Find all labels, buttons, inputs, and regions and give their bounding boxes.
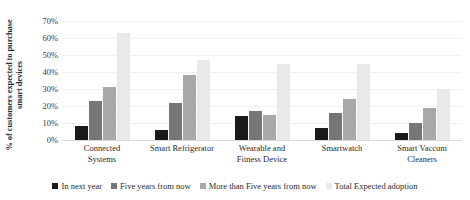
x-axis-category-label: ConnectedSystems (62, 143, 142, 164)
x-axis-category-labels: ConnectedSystemsSmart RefrigeratorWearab… (62, 143, 462, 173)
y-axis-tick-label: 40% (24, 68, 58, 77)
bar-group (302, 21, 382, 140)
bar-group (222, 21, 302, 140)
bar (277, 64, 290, 141)
legend-item[interactable]: Five years from now (111, 181, 191, 191)
bar (357, 64, 370, 141)
bar (329, 113, 342, 140)
legend-label: Total Expected adoption (335, 181, 418, 191)
bar (117, 33, 130, 140)
legend-item[interactable]: In next year (52, 181, 102, 191)
bar (89, 101, 102, 140)
legend-label: Five years from now (120, 181, 191, 191)
bar (409, 123, 422, 140)
bar-group (62, 21, 142, 140)
x-axis-category-label-line: Wearable and (222, 143, 302, 154)
y-axis-tick-label: 70% (24, 17, 58, 26)
x-axis-category-label: Wearable andFitness Device (222, 143, 302, 164)
y-axis-tick-label: 60% (24, 34, 58, 43)
bar (169, 103, 182, 140)
bar-group (382, 21, 462, 140)
x-axis-category-label: Smart Refrigerator (142, 143, 222, 154)
y-axis-title-line-2: smart devices (14, 19, 24, 150)
y-axis-tick-label: 50% (24, 51, 58, 60)
bar (395, 133, 408, 140)
legend-swatch-icon (52, 183, 58, 189)
x-axis-category-label-line: Smart Vaccum (382, 143, 462, 154)
legend-label: More than Five years from now (209, 181, 317, 191)
y-axis-tick-label: 30% (24, 85, 58, 94)
y-axis-tick-label: 20% (24, 102, 58, 111)
bar (75, 126, 88, 140)
bar (155, 130, 168, 140)
plot-area (62, 21, 462, 140)
x-axis-category-label-line: Smart Refrigerator (142, 143, 222, 154)
y-axis-tick-labels: 70%60%50%40%30%20%10%0% (24, 21, 58, 140)
y-axis-tick-label: 0% (24, 136, 58, 145)
bar (249, 111, 262, 140)
bar (183, 75, 196, 140)
chart-legend: In next yearFive years from nowMore than… (0, 181, 470, 191)
y-axis-tick-label: 10% (24, 119, 58, 128)
x-axis-category-label: Smartwatch (302, 143, 382, 154)
bar (343, 99, 356, 140)
x-axis-category-label-line: Fitness Device (222, 154, 302, 165)
legend-swatch-icon (326, 183, 332, 189)
legend-swatch-icon (111, 183, 117, 189)
bar (263, 115, 276, 141)
bar (315, 128, 328, 140)
axis-baseline (62, 140, 462, 141)
x-axis-category-label-line: Systems (62, 154, 142, 165)
bar (423, 108, 436, 140)
legend-label: In next year (61, 181, 102, 191)
bar (197, 60, 210, 140)
legend-item[interactable]: Total Expected adoption (326, 181, 418, 191)
legend-swatch-icon (200, 183, 206, 189)
x-axis-category-label-line: Smartwatch (302, 143, 382, 154)
y-axis-title-line-1: % of customers expected to purchase (4, 19, 14, 150)
x-axis-category-label-line: Cleaners (382, 154, 462, 165)
bar (437, 89, 450, 140)
bar-chart: % of customers expected to purchase smar… (0, 0, 470, 200)
bar (235, 116, 248, 140)
legend-item[interactable]: More than Five years from now (200, 181, 317, 191)
x-axis-category-label: Smart VaccumCleaners (382, 143, 462, 164)
bar (103, 87, 116, 140)
x-axis-category-label-line: Connected (62, 143, 142, 154)
bar-group (142, 21, 222, 140)
